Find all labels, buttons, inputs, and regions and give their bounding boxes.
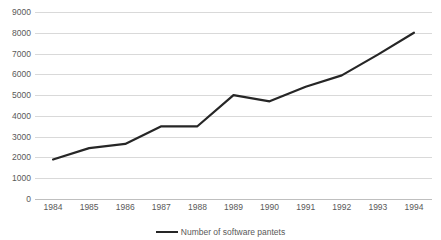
- x-axis-tick-label: 1984: [44, 202, 63, 214]
- x-axis-tick-label: 1994: [404, 202, 423, 214]
- legend-line-swatch-icon: [156, 231, 178, 233]
- y-axis-tick-label: 3000: [1, 132, 31, 141]
- chart-legend: Number of software pantets: [0, 224, 441, 240]
- x-axis-tick-label: 1990: [260, 202, 279, 214]
- series-layer: [35, 12, 432, 199]
- y-axis-tick-label: 7000: [1, 49, 31, 58]
- y-axis-tick-label: 8000: [1, 29, 31, 38]
- series-line-number-of-software-pantets: [53, 33, 414, 160]
- x-axis-tick-label: 1993: [368, 202, 387, 214]
- x-axis-tick-label: 1992: [332, 202, 351, 214]
- y-axis-tick-label: 2000: [1, 153, 31, 162]
- y-axis: 0100020003000400050006000700080009000: [0, 12, 31, 199]
- y-axis-tick-label: 0: [1, 195, 31, 204]
- x-axis-tick-label: 1986: [116, 202, 135, 214]
- x-axis-tick-label: 1988: [188, 202, 207, 214]
- x-axis-tick-label: 1991: [296, 202, 315, 214]
- plot-area: [35, 12, 432, 199]
- legend-item-number-of-software-pantets: Number of software pantets: [156, 228, 285, 237]
- y-axis-tick-label: 6000: [1, 70, 31, 79]
- x-axis: 1984198519861987198819891990199119921993…: [35, 202, 432, 216]
- legend-item-label: Number of software pantets: [181, 228, 285, 237]
- y-axis-tick-label: 5000: [1, 91, 31, 100]
- x-axis-tick-label: 1987: [152, 202, 171, 214]
- x-axis-tick-label: 1989: [224, 202, 243, 214]
- line-chart: 0100020003000400050006000700080009000 19…: [0, 0, 441, 240]
- y-axis-tick-label: 9000: [1, 8, 31, 17]
- x-axis-line: [35, 199, 432, 200]
- y-axis-tick-label: 4000: [1, 112, 31, 121]
- x-axis-tick-label: 1985: [80, 202, 99, 214]
- y-axis-tick-label: 1000: [1, 174, 31, 183]
